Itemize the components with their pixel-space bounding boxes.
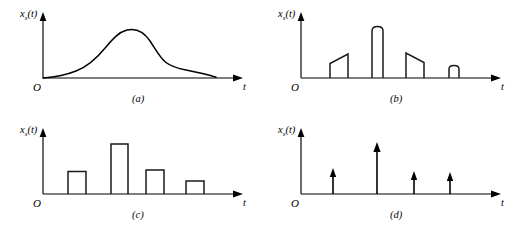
y-axis-arrowhead (40, 128, 47, 137)
panel-c-plot (0, 116, 257, 236)
panel-b-y-axis-label: xs(t) (278, 9, 295, 22)
sample-rect-4 (186, 181, 204, 194)
panel-d-y-axis-label: xs(t) (278, 125, 295, 138)
pulse-4-rounded-short (449, 66, 459, 79)
impulse-4-arrowhead (447, 172, 453, 181)
panel-b-origin-label: O (291, 82, 299, 93)
panel-a-origin-label: O (33, 82, 41, 93)
panel-a-caption: (a) (132, 94, 144, 105)
y-axis-arrowhead (298, 12, 305, 21)
y-axis-arrowhead (40, 12, 47, 21)
panel-c-origin-label: O (33, 198, 41, 209)
panel-b: xs(t) O t (b) (258, 0, 515, 120)
x-axis-arrowhead (233, 74, 243, 81)
panel-a-y-axis-label: xs(t) (20, 9, 37, 22)
impulse-3-arrowhead (411, 171, 417, 180)
panel-c: xs(t) O t (c) (0, 116, 257, 236)
pulse-1-ramp-up (330, 54, 348, 78)
panel-d-caption: (d) (390, 210, 402, 221)
sample-rect-1 (68, 172, 86, 195)
x-axis-arrowhead (491, 190, 501, 197)
panel-a-plot (0, 0, 257, 120)
impulse-1-arrowhead (330, 168, 336, 177)
analog-waveform-path (43, 29, 216, 78)
panel-c-caption: (c) (132, 210, 144, 221)
panel-c-x-axis-label: t (243, 198, 246, 209)
sample-rect-2 (111, 144, 128, 194)
y-axis-arrowhead (298, 128, 305, 137)
x-axis-arrowhead (491, 74, 501, 81)
panel-b-plot (258, 0, 515, 120)
panel-d: xs(t) O t (d) (258, 116, 515, 236)
panel-b-caption: (b) (390, 94, 402, 105)
panel-a-x-axis-label: t (243, 82, 246, 93)
panel-d-plot (258, 116, 515, 236)
panel-d-x-axis-label: t (501, 198, 504, 209)
sampling-signals-figure: xs(t) O t (a) xs(t) O t (b) (0, 0, 515, 241)
panel-a: xs(t) O t (a) (0, 0, 257, 120)
pulse-3-ramp-down (406, 53, 424, 78)
x-axis-arrowhead (233, 190, 243, 197)
sample-rect-3 (146, 170, 164, 194)
panel-c-y-axis-label: xs(t) (20, 125, 37, 138)
panel-b-x-axis-label: t (501, 82, 504, 93)
impulse-2-arrowhead (373, 142, 380, 152)
pulse-2-rounded-tall (372, 27, 383, 79)
panel-d-origin-label: O (291, 198, 299, 209)
